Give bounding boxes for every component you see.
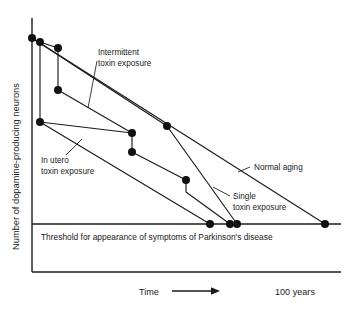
data-point-marker	[36, 38, 44, 46]
label-single-line1: Single	[233, 192, 256, 201]
data-point-marker	[233, 220, 241, 228]
data-point-marker	[128, 148, 136, 156]
data-point-marker	[36, 118, 44, 126]
curve-normal-aging	[32, 38, 325, 224]
x-axis-end-label: 100 years	[275, 287, 315, 297]
x-axis-label: Time	[139, 287, 159, 297]
data-point-marker	[321, 220, 329, 228]
data-point-marker	[54, 44, 62, 52]
threshold-label: Threshold for appearance of symptoms of …	[41, 232, 273, 242]
data-point-marker	[28, 34, 36, 42]
leader-line-intermittent	[88, 61, 97, 108]
data-point-marker	[206, 220, 214, 228]
leader-line-in-utero	[66, 139, 82, 155]
y-axis-label: Number of dopamine-producing neurons	[11, 83, 21, 250]
data-point-marker	[226, 220, 234, 228]
data-point-marker	[54, 86, 62, 94]
label-intermittent-line2: toxin exposure	[98, 59, 152, 68]
data-point-marker	[128, 129, 136, 137]
time-arrow-head	[211, 287, 220, 295]
label-normal-aging: Normal aging	[254, 163, 303, 172]
label-single-line2: toxin exposure	[233, 203, 287, 212]
parkinsons-neuron-decline-figure: Intermittent toxin exposure In utero tox…	[0, 0, 347, 312]
label-in-utero-line1: In utero	[41, 156, 69, 165]
data-point-marker	[163, 122, 171, 130]
label-in-utero-line2: toxin exposure	[41, 167, 95, 176]
figure-canvas: Intermittent toxin exposure In utero tox…	[0, 0, 347, 312]
label-intermittent-line1: Intermittent	[98, 48, 140, 57]
data-point-marker	[182, 176, 190, 184]
